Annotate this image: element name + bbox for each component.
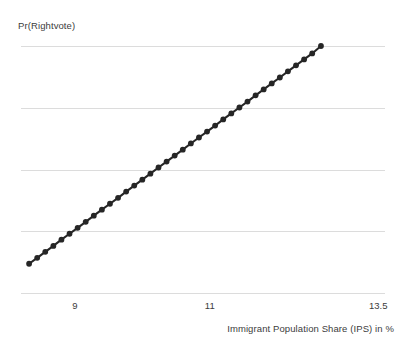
plot-area: [21, 46, 385, 294]
x-tick-label: 13.5: [369, 300, 388, 311]
data-point: [261, 87, 267, 93]
data-point: [245, 99, 251, 105]
data-point: [83, 219, 89, 225]
data-point: [156, 165, 162, 171]
data-point: [253, 92, 259, 98]
data-point: [139, 177, 145, 183]
data-point: [131, 183, 137, 189]
data-point: [42, 249, 48, 255]
data-point: [228, 111, 234, 117]
data-point: [34, 255, 40, 261]
data-point: [99, 207, 105, 213]
data-point: [285, 68, 291, 74]
data-series: [21, 46, 385, 294]
data-point: [269, 81, 275, 87]
x-tick-label: 9: [72, 300, 77, 311]
data-point: [301, 56, 307, 62]
data-point: [164, 159, 170, 165]
series-points: [26, 43, 324, 267]
data-point: [26, 261, 32, 267]
data-point: [309, 51, 315, 57]
data-point: [75, 225, 81, 231]
data-point: [67, 231, 73, 237]
data-point: [293, 62, 299, 68]
data-point: [91, 213, 97, 219]
data-point: [220, 117, 226, 123]
x-tick-label: 11: [205, 300, 215, 311]
data-point: [148, 171, 154, 177]
x-axis-label: Immigrant Population Share (IPS) in %: [227, 323, 394, 334]
data-point: [188, 141, 194, 147]
data-point: [123, 189, 129, 195]
data-point: [212, 123, 218, 129]
data-point: [107, 201, 113, 207]
y-axis-label: Pr(Rightvote): [18, 20, 75, 31]
data-point: [277, 75, 283, 81]
data-point: [196, 135, 202, 141]
data-point: [237, 105, 243, 111]
data-point: [180, 147, 186, 153]
data-point: [50, 243, 56, 249]
data-point: [59, 237, 65, 243]
data-point: [204, 129, 210, 135]
data-point: [172, 153, 178, 159]
data-point: [318, 43, 324, 49]
data-point: [115, 195, 121, 201]
x-axis-tick-labels: 91113.5: [0, 300, 402, 316]
chart-figure: Pr(Rightvote) 91113.5 Immigrant Populati…: [0, 0, 402, 345]
